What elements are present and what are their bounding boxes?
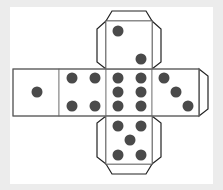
face-6 [106, 69, 152, 116]
pip-dot [113, 87, 124, 98]
pip-dot [136, 150, 147, 161]
pip-dot [113, 101, 124, 112]
dice-net-svg [0, 0, 223, 190]
face-4 [59, 69, 106, 116]
top-tab [106, 11, 152, 21]
right-tab [199, 69, 208, 116]
pip-dot [32, 87, 43, 98]
pip-dot [90, 73, 101, 84]
pip-dot [183, 101, 194, 112]
pip-dot [113, 121, 124, 132]
pip-dot [90, 101, 101, 112]
pip-dot [171, 87, 182, 98]
pip-dot [136, 87, 147, 98]
top-left-tab [97, 21, 106, 69]
pip-dot [136, 54, 147, 65]
pip-dot [67, 73, 78, 84]
dice-net-diagram [0, 0, 223, 190]
pip-dot [113, 26, 124, 37]
pip-dot [136, 101, 147, 112]
face-5 [106, 116, 152, 164]
face-2 [106, 21, 152, 69]
pip-dot [113, 150, 124, 161]
bottom-right-tab [152, 116, 161, 164]
bottom-left-tab [97, 116, 106, 164]
pip-dot [136, 121, 147, 132]
pip-dot [67, 101, 78, 112]
face-3 [152, 69, 199, 116]
top-right-tab [152, 21, 161, 69]
face-1 [13, 69, 59, 116]
pip-dot [113, 73, 124, 84]
pip-dot [125, 135, 136, 146]
pip-dot [136, 73, 147, 84]
pip-dot [159, 73, 170, 84]
bottom-tab [106, 164, 152, 174]
